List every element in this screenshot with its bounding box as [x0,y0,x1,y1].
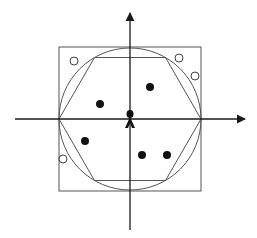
cell-coverage-diagram [0,0,257,238]
user-inside-dot [96,100,104,108]
user-inside-dot [81,137,89,145]
user-inside-dot [146,83,154,91]
user-inside-dot [138,151,146,159]
user-outside-circle [70,57,78,65]
user-inside-dot [163,151,171,159]
user-outside-circle [191,72,199,80]
user-outside-circle [59,155,67,163]
user-outside-circle [175,54,183,62]
